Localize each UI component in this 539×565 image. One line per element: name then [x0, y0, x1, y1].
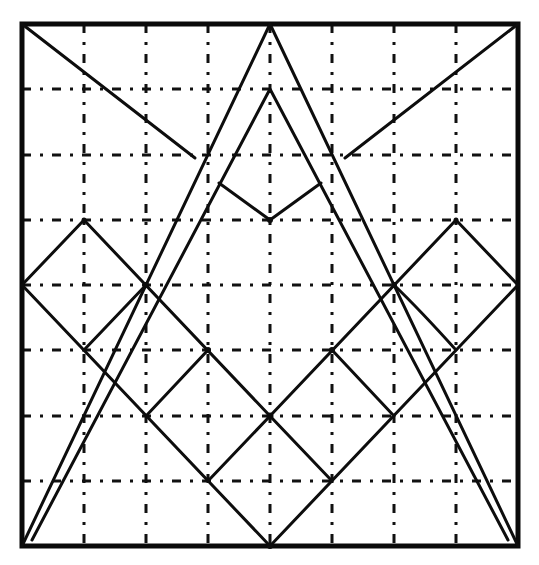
right-cross-3: [270, 416, 332, 481]
left-cross-2: [146, 350, 208, 416]
left-cross-3: [208, 416, 270, 481]
geometric-diagram: [0, 0, 539, 565]
top-left-diagonal: [22, 24, 195, 158]
right-cross-2: [332, 350, 394, 416]
grid: [22, 24, 518, 546]
top-right-diagonal: [345, 24, 518, 158]
center-v: [219, 183, 321, 220]
diagram-canvas: Geometric line drawing on an 8x8 dash-do…: [0, 0, 539, 565]
